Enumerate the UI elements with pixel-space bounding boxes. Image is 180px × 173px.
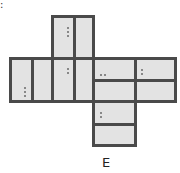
pip: [100, 74, 102, 76]
pip: [24, 95, 26, 97]
pip: [67, 68, 69, 70]
option-label: E: [102, 155, 110, 170]
pip: [141, 73, 143, 75]
pip: [24, 87, 26, 89]
pip: [100, 116, 102, 118]
face-top: [51, 15, 95, 60]
pip: [67, 35, 69, 37]
face-bottom: [92, 100, 137, 147]
pip: [67, 31, 69, 33]
corner-mark: :: [0, 0, 3, 10]
domino-divider: [95, 123, 134, 126]
domino-divider: [31, 60, 34, 100]
pip: [141, 69, 143, 71]
face-far-right: [134, 57, 177, 103]
pip: [67, 72, 69, 74]
face-left: [9, 57, 54, 103]
pip: [104, 74, 106, 76]
face-center: [51, 57, 95, 103]
face-right: [92, 57, 137, 103]
domino-divider: [137, 79, 174, 82]
domino-divider: [73, 18, 76, 57]
domino-divider: [73, 60, 76, 100]
domino-divider: [95, 79, 134, 82]
pip: [100, 112, 102, 114]
pip: [67, 27, 69, 29]
pip: [24, 91, 26, 93]
